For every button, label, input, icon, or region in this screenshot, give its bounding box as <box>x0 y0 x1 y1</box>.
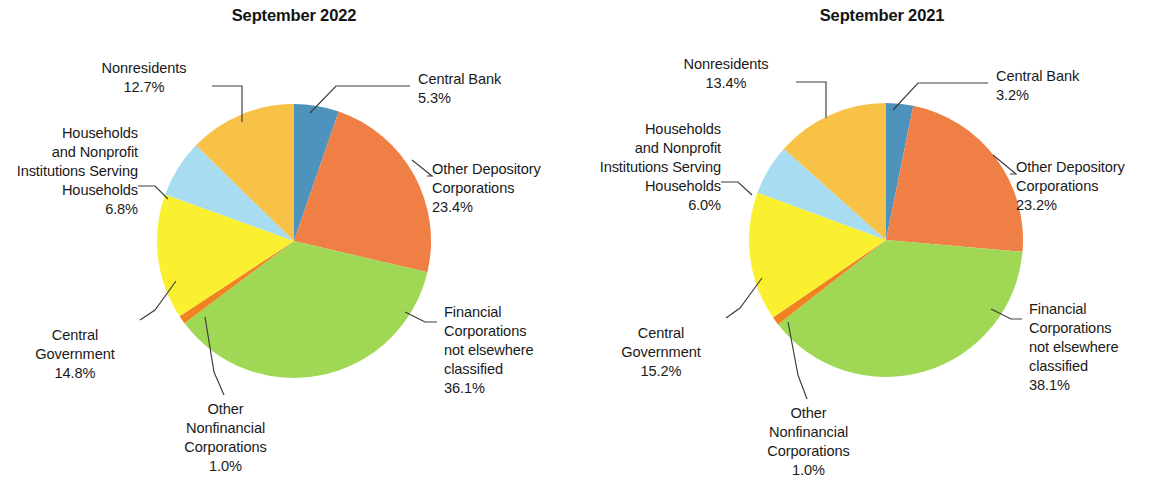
leader-line-nonresidents <box>796 82 826 118</box>
pie-slices-left <box>157 104 431 378</box>
callout-central-government-right: Central Government 15.2% <box>596 324 726 381</box>
callout-other-depository-left: Other Depository Corporations 23.4% <box>432 160 588 217</box>
chart-panel-september-2021: September 2021 Central Bank 3. <box>588 0 1176 496</box>
callout-central-bank-right: Central Bank 3.2% <box>996 67 1156 105</box>
callout-other-nonfinancial-left: Other Nonfinancial Corporations 1.0% <box>143 400 308 476</box>
callout-other-nonfinancial-right: Other Nonfinancial Corporations 1.0% <box>726 404 891 480</box>
callout-nonresidents-left: Nonresidents 12.7% <box>78 59 210 97</box>
callout-households-npish-right: Households and Nonprofit Institutions Se… <box>588 120 721 215</box>
callout-other-depository-right: Other Depository Corporations 23.2% <box>1016 158 1176 215</box>
callout-households-npish-left: Households and Nonprofit Institutions Se… <box>0 124 138 219</box>
callout-nonresidents-right: Nonresidents 13.4% <box>660 55 792 93</box>
leader-line-households-npish <box>721 182 752 195</box>
leader-line-other-depository <box>412 160 432 176</box>
callout-central-bank-left: Central Bank 5.3% <box>418 70 578 108</box>
callout-financial-nec-left: Financial Corporations not elsewhere cla… <box>444 303 588 398</box>
callout-central-government-left: Central Government 14.8% <box>10 326 140 383</box>
callout-financial-nec-right: Financial Corporations not elsewhere cla… <box>1029 300 1176 395</box>
chart-panel-september-2022: September 2022 Central Bank 5. <box>0 0 588 496</box>
leader-line-households-npish <box>138 186 168 199</box>
two-pie-chart-figure: September 2022 Central Bank 5. <box>0 0 1176 496</box>
